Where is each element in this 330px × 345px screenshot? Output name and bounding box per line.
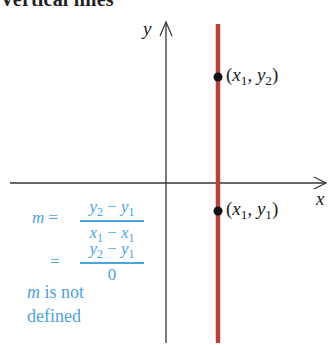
- slope-lhs: m =: [32, 208, 58, 228]
- fraction-numerator: y2 − y1: [80, 240, 144, 260]
- conclusion-line-2: defined: [27, 306, 81, 327]
- slope-fraction-2: y2 − y1 0: [80, 240, 144, 283]
- point-label-lower: (x1, y1): [226, 198, 278, 223]
- fraction-bar: [80, 220, 144, 221]
- point-x1-y1: [214, 207, 223, 216]
- y-axis-label: y: [143, 18, 151, 40]
- fraction-numerator: y2 − y1: [80, 198, 144, 218]
- x-axis-label: x: [316, 188, 324, 210]
- fraction-denominator: 0: [80, 266, 144, 283]
- point-label-upper: (x1, y2): [226, 64, 278, 89]
- slope-equals-2: =: [50, 252, 60, 272]
- conclusion-line-1: m is not: [27, 282, 84, 303]
- slope-fraction-1: y2 − y1 x1 − x1: [80, 198, 144, 244]
- point-x1-y2: [214, 73, 223, 82]
- fraction-bar: [80, 262, 144, 263]
